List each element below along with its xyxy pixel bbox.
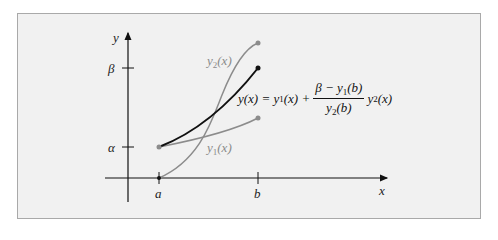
tick-label-alpha: α	[108, 141, 115, 154]
point-y-b	[256, 66, 261, 71]
solution-formula: y(x) = y1(x) + β − y1(b) y2(b) y2(x)	[238, 80, 392, 117]
y-axis-label: y	[113, 31, 119, 44]
formula-fraction: β − y1(b) y2(b)	[313, 80, 364, 117]
point-alpha-a	[157, 145, 162, 150]
point-origin-a	[157, 176, 161, 180]
point-y2-b	[256, 41, 261, 46]
curve-label-y1: y1(x)	[207, 141, 232, 157]
x-axis-label: x	[379, 184, 385, 197]
tick-label-b: b	[254, 187, 261, 200]
tick-label-beta: β	[108, 62, 114, 75]
tick-label-a: a	[155, 187, 162, 200]
curve-label-y2: y2(x)	[207, 54, 232, 70]
